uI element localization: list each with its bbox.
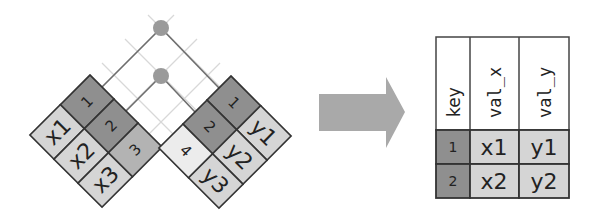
match-dot-2 <box>153 68 169 84</box>
result-valx-2: x2 <box>480 169 507 194</box>
result-key-2: 2 <box>449 173 458 189</box>
result-header-key: key <box>444 87 464 117</box>
result-header-val-y: val_y <box>535 67 555 118</box>
result-valy-2: y2 <box>530 169 557 194</box>
result-valy-1: y1 <box>530 135 557 160</box>
connector-line-1-right <box>161 28 219 88</box>
result-key-1: 1 <box>449 139 458 155</box>
inner-join-diagram: 1 2 3 x1 x2 x3 1 2 4 y1 y2 y3 key val_x … <box>0 0 597 222</box>
match-dot-1 <box>153 20 169 36</box>
result-table: key val_x val_y 1 x1 y1 2 x2 y2 <box>436 37 569 198</box>
connector-line-1-left <box>102 28 161 87</box>
result-valx-1: x1 <box>480 135 507 160</box>
result-header-val-x: val_x <box>485 67 505 118</box>
right-arrow-icon <box>319 77 405 148</box>
